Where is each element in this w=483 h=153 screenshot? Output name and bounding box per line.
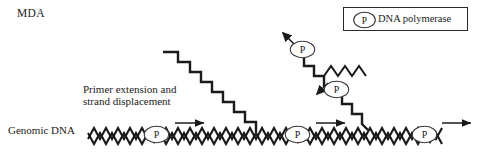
legend-polymerase-ellipse-icon: P — [352, 11, 377, 29]
polymerase-letter: P — [300, 44, 306, 55]
displaced-strand-tertiary — [342, 94, 368, 130]
displaced-strand-primary — [163, 52, 256, 132]
label-primer-extension-line2: strand displacement — [83, 95, 171, 108]
polymerase-ellipse-icon-displaced-1: P — [289, 40, 316, 59]
polymerase-ellipse-icon-template-3: P — [411, 125, 438, 144]
polymerase-letter: P — [295, 129, 301, 140]
legend-box: P DNA polymerase — [343, 7, 468, 31]
polymerase-ellipse-icon-template-2: P — [284, 125, 311, 144]
figure-canvas: P P P P P MDA Genomic DNA Primer extensi… — [0, 0, 483, 153]
polymerase-ellipse-icon-displaced-2: P — [323, 80, 350, 99]
legend-polymerase-letter: P — [362, 16, 367, 26]
polymerase-letter: P — [154, 129, 160, 140]
label-genomic-dna: Genomic DNA — [8, 124, 75, 137]
polymerase-letter: P — [422, 129, 428, 140]
figure-title: MDA — [17, 7, 45, 21]
legend-label: DNA polymerase — [378, 13, 451, 25]
polymerase-letter: P — [334, 84, 340, 95]
polymerase-ellipse-icon-template-1: P — [143, 125, 170, 144]
